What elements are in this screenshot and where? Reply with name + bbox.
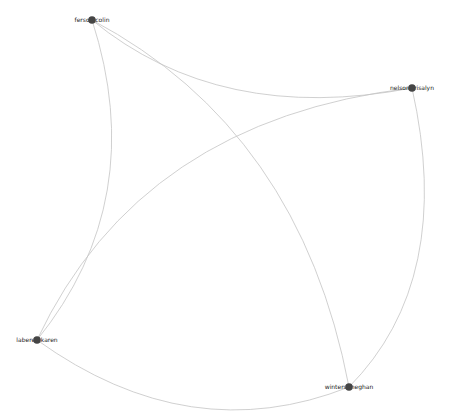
edges	[37, 20, 424, 410]
edge-ferson-winters	[92, 20, 349, 387]
node-ferson[interactable]: ferson colin	[75, 16, 110, 24]
edge-laberee-winters	[37, 340, 349, 410]
node-winters[interactable]: winters meghan	[325, 383, 374, 391]
node-circle[interactable]	[33, 336, 41, 344]
node-laberee[interactable]: laberee karen	[16, 336, 58, 344]
node-circle[interactable]	[345, 383, 353, 391]
edge-ferson-laberee	[37, 20, 112, 340]
edge-nelson-laberee	[37, 88, 412, 340]
network-graph: ferson colin nelson trisalyn laberee kar…	[0, 0, 450, 420]
node-circle[interactable]	[408, 84, 416, 92]
node-nelson[interactable]: nelson trisalyn	[390, 84, 434, 92]
edge-nelson-winters	[349, 88, 424, 387]
node-circle[interactable]	[88, 16, 96, 24]
edge-ferson-nelson	[92, 20, 412, 98]
